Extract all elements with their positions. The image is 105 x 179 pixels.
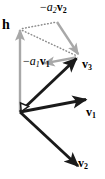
vector-v1-subscript: 1 <box>92 111 96 120</box>
vector-decomposition-figure: h −a2v2 −a1v1 v3 v1 v2 <box>0 0 105 179</box>
vector-v1-subscript: 1 <box>46 60 50 69</box>
vector-v2-subscript: 2 <box>63 6 67 15</box>
vector-v3-subscript: 3 <box>88 63 92 72</box>
vector-diagram-canvas <box>0 0 105 179</box>
dotted-line-h-to-v3-tip <box>23 31 78 57</box>
label-v3: v3 <box>82 58 92 72</box>
minus-sign: − <box>40 0 47 14</box>
label-minus-a1-v1: −a1v1 <box>23 55 50 69</box>
dotted-line-h-to-a2v2-tail <box>23 22 58 29</box>
vector-v2-subscript: 2 <box>84 162 88 171</box>
label-h: h <box>2 18 10 32</box>
label-v1: v1 <box>86 106 96 120</box>
vector-minus-a2-v2-shaft <box>57 22 78 54</box>
vector-v2-shaft <box>20 112 78 166</box>
label-minus-a2-v2: −a2v2 <box>40 1 67 15</box>
minus-sign: − <box>23 54 30 68</box>
label-v2: v2 <box>78 157 88 171</box>
black-vector-group <box>20 59 86 167</box>
